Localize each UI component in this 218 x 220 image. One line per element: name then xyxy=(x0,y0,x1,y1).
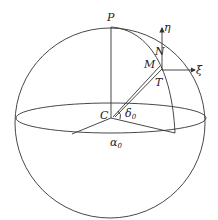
label-xi: ξ xyxy=(196,64,203,77)
label-c: C xyxy=(100,109,109,122)
sphere-outline xyxy=(15,28,205,218)
label-delta: δ0 xyxy=(125,107,137,121)
label-eta: η xyxy=(164,21,171,34)
label-p: P xyxy=(106,11,115,24)
celestial-sphere-diagram: P η N M ξ T C δ0 α0 xyxy=(0,0,218,220)
label-m: M xyxy=(143,58,156,71)
label-n: N xyxy=(154,45,165,58)
label-t: T xyxy=(155,76,164,89)
radius-alpha xyxy=(111,118,175,133)
radius-to-m xyxy=(113,66,160,117)
label-alpha: α0 xyxy=(110,136,122,150)
